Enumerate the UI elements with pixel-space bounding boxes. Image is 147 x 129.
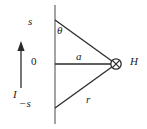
label-field-point-h: H (130, 56, 138, 67)
label-angle-theta: θ (57, 25, 62, 36)
label-bottom-endpoint: −s (19, 98, 31, 109)
label-top-endpoint: s (28, 16, 32, 27)
circled-x-icon (111, 59, 121, 69)
upper-ray-line (55, 20, 116, 64)
label-current-i: I (13, 89, 17, 100)
label-radius-r: r (86, 94, 90, 105)
label-origin: 0 (31, 56, 37, 67)
up-arrow-icon (17, 41, 24, 88)
diagram-canvas (0, 0, 147, 129)
label-distance-a: a (76, 51, 82, 62)
figure-container: s 0 −s θ a r H I (0, 0, 147, 129)
